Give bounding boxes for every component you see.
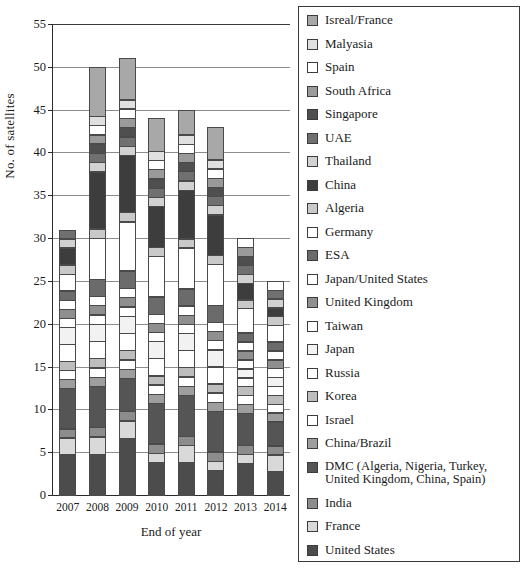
stacked-bar[interactable] <box>237 238 254 495</box>
bar-segment[interactable] <box>148 297 165 315</box>
bar-segment[interactable] <box>267 455 284 472</box>
bar-column: 2008 <box>83 24 113 495</box>
bar-segment[interactable] <box>119 378 136 412</box>
legend-item[interactable]: Thailand <box>307 154 513 168</box>
stacked-bar[interactable] <box>89 67 106 495</box>
bar-segment[interactable] <box>89 454 106 496</box>
legend-item[interactable]: Singapore <box>307 107 513 121</box>
x-axis-tick-label: 2011 <box>175 501 198 513</box>
legend-item-label: Israel <box>325 413 354 427</box>
bar-segment[interactable] <box>267 471 284 496</box>
legend-item[interactable]: France <box>307 519 513 533</box>
legend-item[interactable]: Malyasia <box>307 37 513 51</box>
bar-segment[interactable] <box>148 206 165 247</box>
bar-segment[interactable] <box>178 445 195 463</box>
legend-item[interactable]: Algeria <box>307 201 513 215</box>
bar-segment[interactable] <box>119 316 136 334</box>
bar-segment[interactable] <box>89 238 106 280</box>
stacked-bar[interactable] <box>148 118 165 495</box>
bar-segment[interactable] <box>207 350 224 368</box>
bar-segment[interactable] <box>207 470 224 496</box>
bar-segment[interactable] <box>59 344 76 362</box>
bar-segment[interactable] <box>207 367 224 385</box>
bar-segment[interactable] <box>89 341 106 359</box>
bar-segment[interactable] <box>178 395 195 436</box>
bar-segment[interactable] <box>207 411 224 452</box>
legend-item[interactable]: United States <box>307 543 513 557</box>
legend-item-label: Singapore <box>325 107 378 121</box>
legend-item[interactable]: China/Brazil <box>307 436 513 450</box>
stacked-bar[interactable] <box>119 58 136 495</box>
bar-segment[interactable] <box>148 341 165 359</box>
legend-item[interactable]: South Africa <box>307 84 513 98</box>
bar-segment[interactable] <box>267 422 284 447</box>
bar-segment[interactable] <box>59 248 76 266</box>
bar-segment[interactable] <box>178 462 195 496</box>
legend-swatch-icon <box>307 545 318 556</box>
bar-segment[interactable] <box>237 283 254 300</box>
bar-segment[interactable] <box>207 264 224 305</box>
legend-item[interactable]: DMC (Algeria, Nigeria, Turkey, United Ki… <box>307 460 513 487</box>
legend-item[interactable]: Russia <box>307 366 513 380</box>
bar-segment[interactable] <box>148 118 165 152</box>
bar-segment[interactable] <box>237 463 254 496</box>
bar-segment[interactable] <box>89 386 106 428</box>
legend-swatch-icon <box>307 109 318 120</box>
bar-segment[interactable] <box>178 110 195 136</box>
legend-item[interactable]: Isreal/France <box>307 13 513 27</box>
bar-segment[interactable] <box>237 308 254 333</box>
bar-segment[interactable] <box>119 155 136 213</box>
bar-segment[interactable] <box>89 324 106 342</box>
bar-segment[interactable] <box>59 455 76 496</box>
legend-item[interactable]: India <box>307 496 513 510</box>
legend-item[interactable]: United Kingdom <box>307 295 513 309</box>
bar-segment[interactable] <box>119 271 136 289</box>
legend-item[interactable]: Korea <box>307 389 513 403</box>
bar-segment[interactable] <box>178 350 195 368</box>
bar-segment[interactable] <box>119 222 136 272</box>
bar-segment[interactable] <box>207 127 224 160</box>
bar-segment[interactable] <box>148 358 165 376</box>
bar-segment[interactable] <box>148 403 165 444</box>
legend-item[interactable]: Spain <box>307 60 513 74</box>
bar-segment[interactable] <box>119 438 136 496</box>
legend-item-label: Isreal/France <box>325 13 393 27</box>
bar-segment[interactable] <box>89 437 106 455</box>
bar-segment[interactable] <box>178 333 195 351</box>
bar-segment[interactable] <box>237 413 254 446</box>
bar-segment[interactable] <box>178 190 195 239</box>
legend-item[interactable]: China <box>307 178 513 192</box>
legend-item[interactable]: UAE <box>307 131 513 145</box>
x-axis-tick-label: 2014 <box>264 501 287 513</box>
legend-item[interactable]: Germany <box>307 225 513 239</box>
bar-segment[interactable] <box>119 58 136 100</box>
x-axis-tick-label: 2009 <box>116 501 139 513</box>
bar-segment[interactable] <box>89 67 106 117</box>
bar-segment[interactable] <box>59 274 76 292</box>
bar-segment[interactable] <box>267 325 284 342</box>
bar-segment[interactable] <box>178 289 195 307</box>
bar-segment[interactable] <box>59 327 76 345</box>
stacked-bar[interactable] <box>207 127 224 495</box>
stacked-bar[interactable] <box>267 281 284 495</box>
bar-segment[interactable] <box>89 172 106 230</box>
legend-item[interactable]: Japan/United States <box>307 272 513 286</box>
legend-item[interactable]: ESA <box>307 248 513 262</box>
bar-segment[interactable] <box>207 215 224 256</box>
stacked-bar[interactable] <box>59 230 76 495</box>
legend-swatch-icon <box>307 86 318 97</box>
legend-item[interactable]: Japan <box>307 342 513 356</box>
legend-item-label: Japan/United States <box>325 272 428 286</box>
bar-segment[interactable] <box>148 462 165 496</box>
bar-segment[interactable] <box>148 256 165 297</box>
legend-item[interactable]: Israel <box>307 413 513 427</box>
bar-segment[interactable] <box>207 305 224 323</box>
bar-segment[interactable] <box>59 438 76 456</box>
stacked-bar[interactable] <box>178 110 195 495</box>
bar-segment[interactable] <box>119 333 136 351</box>
bar-segment[interactable] <box>119 421 136 439</box>
bar-segment[interactable] <box>89 279 106 297</box>
bar-segment[interactable] <box>59 388 76 429</box>
legend-item[interactable]: Taiwan <box>307 319 513 333</box>
bar-segment[interactable] <box>178 248 195 289</box>
